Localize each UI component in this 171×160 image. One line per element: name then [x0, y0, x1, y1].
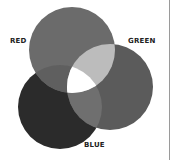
green-label: GREEN [128, 38, 156, 45]
red-label: RED [10, 38, 27, 45]
border-line [169, 0, 170, 160]
venn-diagram [0, 0, 171, 160]
blue-label: BLUE [84, 142, 105, 149]
